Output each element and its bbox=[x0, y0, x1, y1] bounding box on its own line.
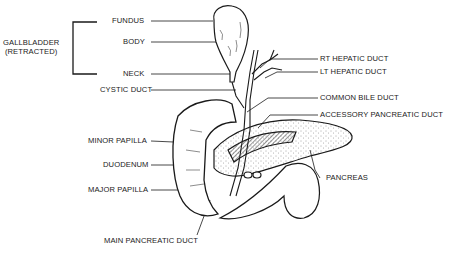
label-duodenum: DUODENUM bbox=[103, 161, 149, 169]
label-fundus: FUNDUS bbox=[112, 17, 144, 25]
gallbladder-bracket bbox=[73, 22, 97, 74]
label-body: BODY bbox=[123, 38, 145, 46]
label-lt-hepatic-duct: LT HEPATIC DUCT bbox=[320, 68, 387, 76]
gallbladder-group-label: GALLBLADDER (RETRACTED) bbox=[3, 38, 59, 57]
retracted-label: (RETRACTED) bbox=[3, 47, 59, 56]
label-cystic-duct: CYSTIC DUCT bbox=[100, 86, 152, 94]
label-major-papilla: MAJOR PAPILLA bbox=[88, 186, 148, 194]
gallbladder bbox=[214, 6, 249, 82]
gallbladder-label: GALLBLADDER bbox=[3, 38, 59, 47]
label-minor-papilla: MINOR PAPILLA bbox=[88, 137, 147, 145]
pancreas bbox=[214, 120, 352, 176]
label-neck: NECK bbox=[123, 70, 145, 78]
label-main-pancreatic-duct: MAIN PANCREATIC DUCT bbox=[104, 237, 198, 245]
label-accessory-pancreatic-duct: ACCESSORY PANCREATIC DUCT bbox=[320, 111, 443, 119]
anatomy-illustration bbox=[0, 0, 455, 256]
label-rt-hepatic-duct: RT HEPATIC DUCT bbox=[320, 55, 388, 63]
label-pancreas: PANCREAS bbox=[326, 174, 368, 182]
label-common-bile-duct: COMMON BILE DUCT bbox=[320, 94, 399, 102]
